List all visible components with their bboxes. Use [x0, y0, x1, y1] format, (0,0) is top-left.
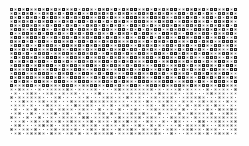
density-matrix-heatmap [10, 8, 240, 138]
figure-container [0, 0, 249, 146]
matrix-plot-area [10, 8, 240, 138]
